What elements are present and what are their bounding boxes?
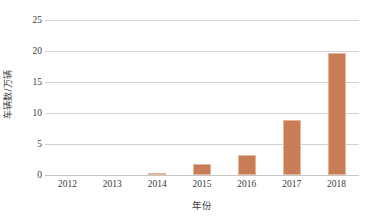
y-axis-title: 车辆数/万辆 bbox=[0, 46, 16, 142]
bar-2015 bbox=[193, 164, 211, 175]
x-tick-label-2014: 2014 bbox=[135, 179, 180, 190]
bar-chart-figure: 车辆数/万辆 0510152025 2012201320142015201620… bbox=[0, 0, 366, 223]
bar-2014 bbox=[148, 173, 166, 175]
x-axis-tick-labels: 2012201320142015201620172018 bbox=[45, 179, 359, 193]
y-tick-label-25: 25 bbox=[16, 15, 42, 25]
x-tick-label-2016: 2016 bbox=[224, 179, 269, 190]
y-tick-label-10: 10 bbox=[16, 108, 42, 118]
x-tick-label-2017: 2017 bbox=[269, 179, 314, 190]
x-tick-label-2013: 2013 bbox=[90, 179, 135, 190]
x-tick-label-2012: 2012 bbox=[45, 179, 90, 190]
x-axis-title: 年份 bbox=[45, 198, 359, 212]
gridline-0 bbox=[45, 175, 359, 176]
x-tick-label-2015: 2015 bbox=[180, 179, 225, 190]
plot-area bbox=[45, 20, 359, 175]
y-axis-tick-labels: 0510152025 bbox=[16, 0, 42, 223]
bar-2017 bbox=[283, 120, 301, 175]
x-tick-label-2018: 2018 bbox=[314, 179, 359, 190]
bar-2016 bbox=[238, 155, 256, 175]
y-axis-title-text: 车辆数/万辆 bbox=[2, 69, 15, 118]
y-tick-label-5: 5 bbox=[16, 139, 42, 149]
y-tick-label-20: 20 bbox=[16, 46, 42, 56]
y-tick-label-15: 15 bbox=[16, 77, 42, 87]
y-tick-label-0: 0 bbox=[16, 170, 42, 180]
bar-2018 bbox=[328, 53, 346, 175]
bars-layer bbox=[45, 20, 359, 175]
